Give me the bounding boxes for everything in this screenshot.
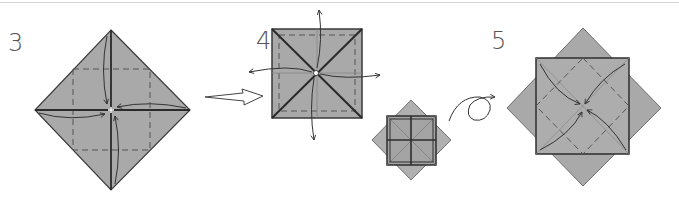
step-3-figure bbox=[35, 30, 190, 190]
hollow-right-arrow-icon bbox=[205, 89, 263, 105]
turn-over-arrow-icon bbox=[449, 97, 495, 121]
origami-diagram bbox=[0, 0, 679, 204]
step-4-figure bbox=[249, 10, 380, 140]
intermediate-figure bbox=[372, 100, 451, 180]
step-5-figure bbox=[507, 28, 661, 186]
